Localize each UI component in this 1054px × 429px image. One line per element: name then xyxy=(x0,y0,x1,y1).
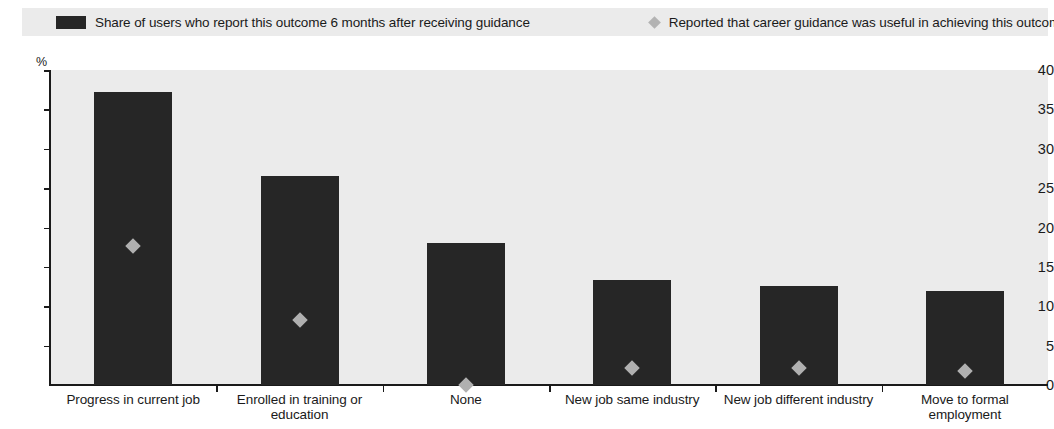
y-tick-label: 20 xyxy=(1014,220,1054,236)
y-tick-label: 0 xyxy=(1014,377,1054,393)
y-tick-mark xyxy=(44,188,50,190)
legend-label-bar-series: Share of users who report this outcome 6… xyxy=(95,15,530,30)
x-tick-mark xyxy=(549,385,551,392)
y-tick-label: 30 xyxy=(1014,141,1054,157)
x-category-label-line: education xyxy=(194,407,404,422)
y-tick-label: 10 xyxy=(1014,298,1054,314)
filled-square-swatch-icon xyxy=(56,16,86,29)
y-tick-mark xyxy=(44,228,50,230)
plot-area xyxy=(50,70,1048,385)
y-tick-mark xyxy=(44,346,50,348)
y-axis-unit-label: % xyxy=(36,55,47,69)
y-tick-label: 5 xyxy=(1014,338,1054,354)
y-tick-label: 25 xyxy=(1014,180,1054,196)
bar xyxy=(261,176,339,385)
y-tick-label: 40 xyxy=(1014,62,1054,78)
legend-item-bar-series: Share of users who report this outcome 6… xyxy=(56,15,530,30)
x-category-label-line: Move to formal xyxy=(860,392,1054,407)
x-tick-mark xyxy=(715,385,717,392)
legend-label-marker-series: Reported that career guidance was useful… xyxy=(669,15,1054,30)
x-category-label: Move to formalemployment xyxy=(860,392,1054,422)
y-tick-label: 35 xyxy=(1014,101,1054,117)
diamond-marker-swatch-icon xyxy=(648,16,661,29)
chart-legend: Share of users who report this outcome 6… xyxy=(22,8,1048,36)
chart-figure: Share of users who report this outcome 6… xyxy=(0,0,1054,429)
legend-item-marker-series: Reported that career guidance was useful… xyxy=(648,15,1054,30)
y-tick-mark xyxy=(44,70,50,72)
x-tick-mark xyxy=(216,385,218,392)
y-tick-mark xyxy=(44,109,50,111)
y-tick-label: 15 xyxy=(1014,259,1054,275)
x-tick-mark xyxy=(383,385,385,392)
bar xyxy=(427,243,505,385)
y-tick-mark xyxy=(44,306,50,308)
x-category-label-line: employment xyxy=(860,407,1054,422)
y-tick-mark xyxy=(44,267,50,269)
y-tick-mark xyxy=(44,149,50,151)
x-tick-mark xyxy=(882,385,884,392)
